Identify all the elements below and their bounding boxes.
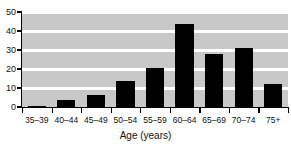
- y-axis-tick: [17, 87, 21, 88]
- y-axis-line: [21, 11, 22, 108]
- x-axis-tick-label: 75+: [253, 115, 291, 125]
- y-axis-tick: [17, 106, 21, 107]
- x-axis-tick: [229, 108, 230, 113]
- y-axis-tick-label: 20: [0, 65, 16, 74]
- x-axis-tick: [140, 108, 141, 113]
- bar: [57, 100, 75, 107]
- x-axis-tick: [288, 108, 289, 113]
- bar-chart-figure: 01020304050 35–3940–4445–4950–5455–5960–…: [0, 0, 291, 147]
- bar: [264, 84, 282, 107]
- x-axis-tick: [81, 108, 82, 113]
- y-axis-tick: [17, 30, 21, 31]
- y-axis-tick-label: 0: [0, 103, 16, 112]
- y-axis-tick: [17, 49, 21, 50]
- y-axis-tick: [17, 68, 21, 69]
- bar: [205, 54, 223, 107]
- x-axis-tick: [258, 108, 259, 113]
- y-axis-tick-label: 40: [0, 27, 16, 36]
- plot-area: [22, 12, 288, 107]
- clipped-header-text: [0, 0, 291, 7]
- bar: [146, 68, 164, 107]
- x-axis-tick: [170, 108, 171, 113]
- y-axis-tick: [17, 11, 21, 12]
- x-axis-title: Age (years): [0, 130, 291, 142]
- x-axis-tick: [52, 108, 53, 113]
- x-axis-tick: [199, 108, 200, 113]
- bar: [116, 81, 134, 107]
- bars-group: [22, 12, 288, 107]
- y-axis-tick-label: 50: [0, 8, 16, 17]
- y-axis-tick-label: 30: [0, 46, 16, 55]
- x-axis-line: [21, 107, 289, 108]
- bar: [175, 24, 193, 107]
- bar: [87, 95, 105, 107]
- x-axis-tick: [111, 108, 112, 113]
- x-axis-tick: [22, 108, 23, 113]
- y-axis-tick-label: 10: [0, 84, 16, 93]
- bar: [235, 48, 253, 107]
